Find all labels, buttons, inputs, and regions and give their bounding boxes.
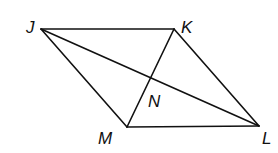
rhombus-diagram: J K L M N [0, 0, 278, 153]
label-n: N [148, 92, 161, 111]
label-m: M [98, 129, 113, 148]
label-l: L [262, 129, 271, 148]
segment-mj [41, 29, 127, 127]
segment-kl [174, 29, 259, 126]
diagonal-km [127, 29, 174, 127]
label-k: K [181, 18, 193, 37]
segment-lm [127, 126, 259, 127]
label-j: J [25, 18, 35, 37]
segments [41, 29, 259, 127]
